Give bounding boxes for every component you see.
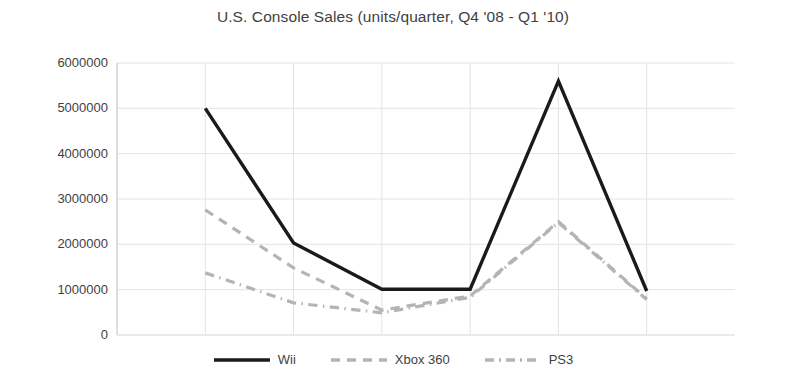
legend-label-xbox-360: Xbox 360 <box>395 352 450 367</box>
legend-swatch-wii <box>213 353 271 367</box>
series-lines <box>205 81 646 313</box>
legend-label-ps3: PS3 <box>549 352 574 367</box>
legend-item-wii[interactable]: Wii <box>213 352 296 367</box>
series-line-ps3 <box>205 223 646 313</box>
chart-legend: Wii Xbox 360 PS3 <box>0 352 786 367</box>
chart-container: U.S. Console Sales (units/quarter, Q4 '0… <box>0 0 786 391</box>
y-axis-tick-label: 2000000 <box>57 237 108 250</box>
y-axis-tick-label: 5000000 <box>57 101 108 114</box>
y-axis-tick-label: 6000000 <box>57 56 108 69</box>
y-axis-tick-label: 4000000 <box>57 147 108 160</box>
legend-swatch-ps3 <box>484 353 542 367</box>
legend-item-xbox-360[interactable]: Xbox 360 <box>330 352 450 367</box>
y-axis-tick-label: 0 <box>101 328 108 341</box>
plot-area <box>0 0 786 391</box>
legend-swatch-xbox-360 <box>330 353 388 367</box>
legend-label-wii: Wii <box>278 352 296 367</box>
legend-item-ps3[interactable]: PS3 <box>484 352 574 367</box>
y-axis-tick-label: 3000000 <box>57 192 108 205</box>
series-line-wii <box>205 81 646 291</box>
y-axis-tick-label: 1000000 <box>57 283 108 296</box>
